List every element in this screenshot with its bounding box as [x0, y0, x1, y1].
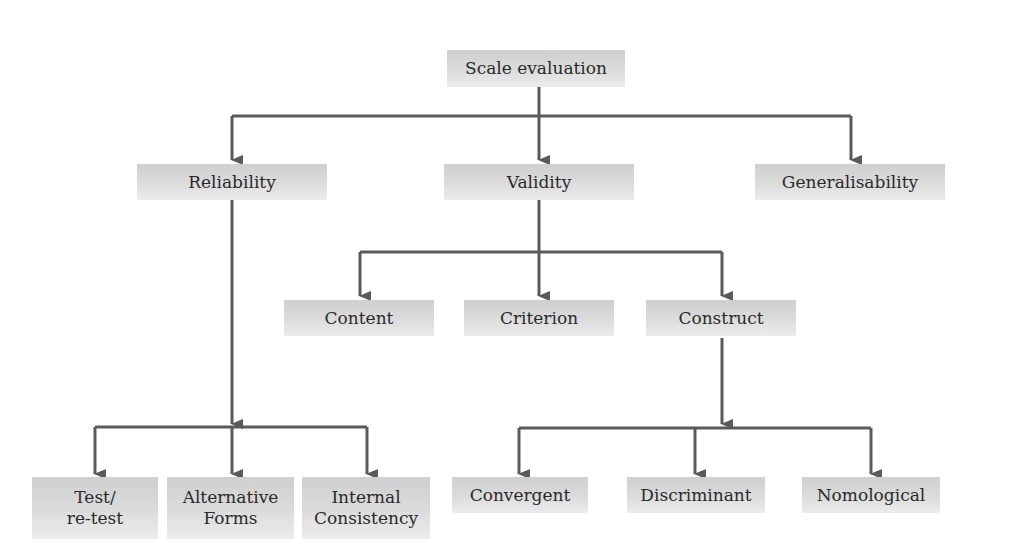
- node-label-line1: Test/: [74, 487, 115, 508]
- node-label-line1: Internal: [331, 487, 400, 508]
- node-label: Nomological: [817, 485, 926, 506]
- node-label: Reliability: [188, 172, 276, 193]
- node-label: Construct: [678, 308, 763, 329]
- node-label-line1: Alternative: [183, 487, 279, 508]
- node-label: Discriminant: [640, 485, 751, 506]
- node-label: Content: [325, 308, 394, 329]
- node-label: Scale evaluation: [465, 58, 607, 79]
- node-generalisability: Generalisability: [755, 164, 945, 200]
- node-alternative-forms: Alternative Forms: [167, 477, 294, 539]
- node-label: Convergent: [470, 485, 571, 506]
- node-validity: Validity: [444, 164, 634, 200]
- node-label: Generalisability: [782, 172, 918, 193]
- node-label-line2: re-test: [67, 508, 123, 529]
- node-discriminant: Discriminant: [627, 477, 765, 513]
- node-label-line2: Forms: [203, 508, 257, 529]
- node-label: Criterion: [500, 308, 578, 329]
- scale-evaluation-diagram: Scale evaluation Reliability Validity Ge…: [0, 0, 1014, 555]
- node-scale-evaluation: Scale evaluation: [447, 50, 625, 87]
- node-criterion: Criterion: [464, 300, 614, 336]
- node-label: Validity: [507, 172, 571, 193]
- node-reliability: Reliability: [137, 164, 327, 200]
- node-test-retest: Test/ re-test: [32, 477, 158, 539]
- node-nomological: Nomological: [802, 477, 940, 513]
- node-label-line2: Consistency: [314, 508, 418, 529]
- node-convergent: Convergent: [452, 477, 588, 513]
- node-internal-consistency: Internal Consistency: [302, 477, 430, 539]
- node-content: Content: [284, 300, 434, 336]
- node-construct: Construct: [646, 300, 796, 336]
